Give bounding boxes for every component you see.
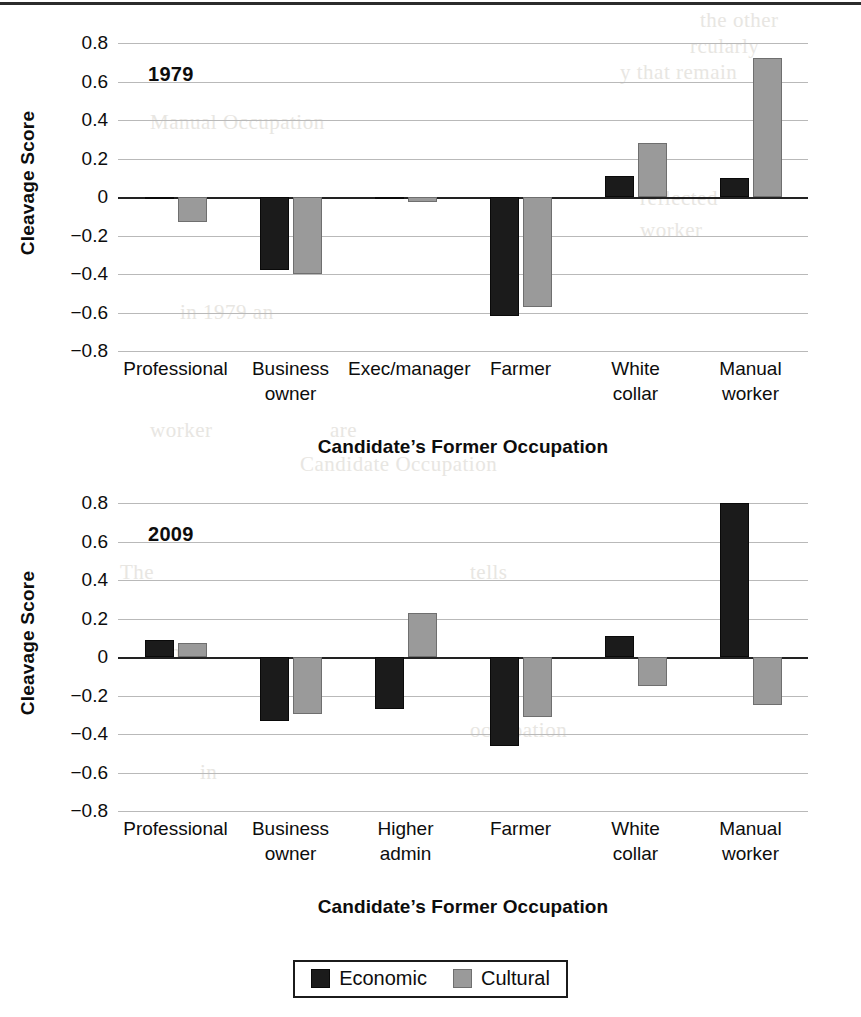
x-tick-label: Farmer	[463, 356, 578, 381]
bar-economic-business-owner	[260, 657, 289, 721]
bar-cultural-farmer	[523, 657, 552, 717]
x-tick-label: Manual worker	[693, 816, 808, 866]
bar-cultural-professional	[178, 643, 207, 657]
y-axis-tick-label: −0.4	[48, 263, 108, 285]
chart-legend: EconomicCultural	[0, 960, 861, 998]
bar-cultural-exec-manager	[408, 197, 437, 202]
y-axis-tick-label: −0.4	[48, 723, 108, 745]
gridline	[118, 313, 808, 314]
x-tick-label: Professional	[118, 356, 233, 381]
gridline	[118, 619, 808, 620]
bar-economic-white-collar	[605, 176, 634, 197]
legend-label: Cultural	[481, 967, 550, 990]
legend-box: EconomicCultural	[293, 960, 568, 998]
bar-economic-professional	[145, 640, 174, 657]
gridline	[118, 734, 808, 735]
chart-year-label-1979: 1979	[148, 63, 194, 86]
y-axis-tick-label: 0	[48, 186, 108, 208]
y-axis-tick-label: −0.6	[48, 302, 108, 324]
bar-cultural-business-owner	[293, 197, 322, 274]
legend-swatch-cultural-icon	[453, 969, 472, 988]
bar-economic-farmer	[490, 657, 519, 746]
y-axis-tick-label: 0.4	[48, 109, 108, 131]
page-edge-line	[0, 2, 861, 5]
x-tick-label: Professional	[118, 816, 233, 841]
zero-axis-line	[118, 657, 808, 659]
legend-label: Economic	[339, 967, 427, 990]
y-axis-title-2009: Cleavage Score	[8, 478, 48, 808]
gridline	[118, 236, 808, 237]
x-tick-label: Manual worker	[693, 356, 808, 406]
x-tick-label: Exec/manager	[348, 356, 463, 381]
gridline	[118, 696, 808, 697]
x-axis-tick-labels-2009: ProfessionalBusiness ownerHigher adminFa…	[118, 816, 808, 878]
x-tick-label: Business owner	[233, 356, 348, 406]
y-axis-tick-label: 0.2	[48, 148, 108, 170]
y-axis-tick-label: 0.8	[48, 492, 108, 514]
x-axis-tick-labels-1979: ProfessionalBusiness ownerExec/managerFa…	[118, 356, 808, 418]
bar-cultural-white-collar	[638, 143, 667, 197]
y-axis-tick-label: 0.2	[48, 608, 108, 630]
bar-cultural-white-collar	[638, 657, 667, 686]
chart-1979: Cleavage Score 1979 0.80.60.40.20−0.2−0.…	[0, 18, 861, 470]
y-axis-tick-label: 0.6	[48, 71, 108, 93]
y-axis-tick-label: 0.8	[48, 32, 108, 54]
gridline	[118, 580, 808, 581]
bar-economic-exec-manager	[375, 197, 404, 199]
plot-area-2009: 0.80.60.40.20−0.2−0.4−0.6−0.8	[118, 503, 808, 811]
y-axis-tick-label: −0.6	[48, 762, 108, 784]
chart-year-label-2009: 2009	[148, 523, 194, 546]
y-axis-tick-label: 0.6	[48, 531, 108, 553]
gridline	[118, 503, 808, 504]
bar-economic-manual-worker	[720, 178, 749, 197]
gridline	[118, 811, 808, 812]
y-axis-title-1979: Cleavage Score	[8, 18, 48, 348]
gridline	[118, 274, 808, 275]
plot-area-1979: 0.80.60.40.20−0.2−0.4−0.6−0.8	[118, 43, 808, 351]
bar-cultural-manual-worker	[753, 58, 782, 197]
y-axis-tick-label: 0	[48, 646, 108, 668]
bar-cultural-farmer	[523, 197, 552, 307]
gridline	[118, 773, 808, 774]
x-tick-label: White collar	[578, 816, 693, 866]
bar-economic-higher-admin	[375, 657, 404, 709]
bar-cultural-manual-worker	[753, 657, 782, 705]
y-axis-tick-label: 0.4	[48, 569, 108, 591]
x-tick-label: Higher admin	[348, 816, 463, 866]
gridline	[118, 159, 808, 160]
legend-swatch-economic-icon	[311, 969, 330, 988]
gridline	[118, 43, 808, 44]
bar-economic-farmer	[490, 197, 519, 316]
chart-2009: Cleavage Score 2009 0.80.60.40.20−0.2−0.…	[0, 478, 861, 938]
bar-economic-professional	[145, 197, 174, 199]
bar-economic-manual-worker	[720, 503, 749, 657]
gridline	[118, 542, 808, 543]
x-axis-title-1979: Candidate’s Former Occupation	[118, 436, 808, 458]
bar-economic-white-collar	[605, 636, 634, 657]
y-axis-tick-label: −0.8	[48, 800, 108, 822]
gridline	[118, 82, 808, 83]
bar-cultural-professional	[178, 197, 207, 222]
legend-item-economic: Economic	[311, 967, 427, 990]
x-tick-label: White collar	[578, 356, 693, 406]
x-tick-label: Farmer	[463, 816, 578, 841]
x-tick-label: Business owner	[233, 816, 348, 866]
legend-item-cultural: Cultural	[453, 967, 550, 990]
bar-economic-business-owner	[260, 197, 289, 270]
gridline	[118, 351, 808, 352]
bar-cultural-business-owner	[293, 657, 322, 714]
y-axis-tick-label: −0.2	[48, 225, 108, 247]
gridline	[118, 120, 808, 121]
y-axis-tick-label: −0.2	[48, 685, 108, 707]
zero-axis-line	[118, 197, 808, 199]
x-axis-title-2009: Candidate’s Former Occupation	[118, 896, 808, 918]
y-axis-tick-label: −0.8	[48, 340, 108, 362]
bar-cultural-higher-admin	[408, 613, 437, 657]
